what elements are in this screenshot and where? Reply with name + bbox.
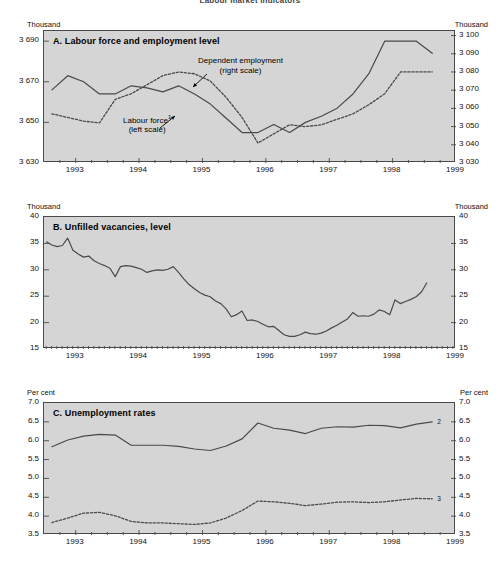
- yCR-tick: 4.5: [459, 492, 470, 500]
- annotation-line-1: Dependent employment: [198, 56, 283, 65]
- panel-c-unit-right: Per cent: [460, 388, 488, 397]
- x-axis-tick: 1993: [55, 166, 95, 174]
- yBL-tick: 20: [30, 318, 39, 326]
- panel-b-unit-right: Thousand: [455, 202, 488, 211]
- yAL-tick: 3 630: [19, 158, 39, 166]
- x-axis-tick: 1997: [308, 352, 348, 360]
- yCL-tick: 5.5: [28, 455, 39, 463]
- yCL-tick: 4.5: [28, 492, 39, 500]
- x-axis-tick: 1995: [181, 352, 221, 360]
- x-axis-tick: 1994: [118, 538, 158, 546]
- x-axis-tick: 1996: [245, 166, 285, 174]
- x-axis-tick: 1998: [372, 352, 412, 360]
- x-axis-tick: 1997: [308, 538, 348, 546]
- x-axis-tick: 1993: [55, 352, 95, 360]
- x-axis-tick: 1994: [118, 352, 158, 360]
- yCR-tick: 6.5: [459, 417, 470, 425]
- panel-c-chart: 23: [44, 403, 456, 535]
- x-axis-tick: 1998: [372, 166, 412, 174]
- yAL-tick: 3 690: [19, 36, 39, 44]
- panel-b: Thousand Thousand B. Unfilled vacancies,…: [0, 200, 500, 378]
- panel-a-plot-area: A. Labour force and employment level: [43, 30, 455, 162]
- series-marker-3: 3: [437, 495, 441, 502]
- yCL-tick: 4.0: [28, 511, 39, 519]
- yAR-tick: 3 070: [459, 85, 479, 93]
- yCL-tick: 3.5: [28, 530, 39, 538]
- yBL-tick: 30: [30, 265, 39, 273]
- series-line-1: [52, 498, 432, 524]
- yAR-tick: 3 060: [459, 103, 479, 111]
- yCR-tick: 6.0: [459, 436, 470, 444]
- yAR-tick: 3 080: [459, 67, 479, 75]
- panel-a-chart: [44, 31, 456, 163]
- yCR-tick: 7.0: [459, 398, 470, 406]
- yCL-tick: 7.0: [28, 398, 39, 406]
- yBL-tick: 40: [30, 212, 39, 220]
- panel-a-unit-left: Thousand: [27, 20, 60, 29]
- yAR-tick: 3 090: [459, 49, 479, 57]
- yAL-tick: 3 650: [19, 117, 39, 125]
- series-line-0: [52, 41, 432, 132]
- yBR-tick: 35: [459, 238, 468, 246]
- annotation-line-2: (right scale): [198, 66, 283, 76]
- annotation-dependent-employment: Dependent employment(right scale): [198, 56, 283, 75]
- yBR-tick: 30: [459, 265, 468, 273]
- yCR-tick: 5.0: [459, 473, 470, 481]
- yBL-tick: 25: [30, 291, 39, 299]
- yAL-tick: 3 670: [19, 77, 39, 85]
- yAR-tick: 3 050: [459, 122, 479, 130]
- x-axis-tick: 1998: [372, 538, 412, 546]
- annotation-line-2: (left scale): [123, 125, 171, 135]
- yAR-tick: 3 100: [459, 31, 479, 39]
- figure-title: Labour market indicators: [0, 0, 500, 5]
- yCL-tick: 6.5: [28, 417, 39, 425]
- panel-b-plot-area: B. Unfilled vacancies, level: [43, 216, 455, 348]
- x-axis-tick: 1994: [118, 166, 158, 174]
- yCL-tick: 5.0: [28, 473, 39, 481]
- annotation-labour-force: Labour force1(left scale): [123, 113, 171, 135]
- yBR-tick: 25: [459, 291, 468, 299]
- x-axis-tick: 1999: [435, 538, 475, 546]
- yBL-tick: 35: [30, 238, 39, 246]
- x-axis-tick: 1993: [55, 538, 95, 546]
- yBR-tick: 40: [459, 212, 468, 220]
- yBL-tick: 15: [30, 344, 39, 352]
- panel-b-unit-left: Thousand: [27, 202, 60, 211]
- series-line-0: [47, 238, 427, 336]
- series-line-0: [52, 422, 432, 451]
- panel-c-plot-area: C. Unemployment rates 23: [43, 402, 455, 534]
- labour-market-figure: Labour market indicators Thousand Thousa…: [0, 0, 500, 573]
- series-marker-2: 2: [437, 418, 441, 425]
- x-axis-tick: 1999: [435, 352, 475, 360]
- yCR-tick: 5.5: [459, 455, 470, 463]
- yBR-tick: 20: [459, 318, 468, 326]
- annotation-line-1: Labour force1: [123, 116, 171, 125]
- panel-a-unit-right: Thousand: [455, 20, 488, 29]
- x-axis-tick: 1997: [308, 166, 348, 174]
- yCR-tick: 4.0: [459, 511, 470, 519]
- x-axis-tick: 1999: [435, 166, 475, 174]
- panel-b-chart: [44, 217, 456, 349]
- yCL-tick: 6.0: [28, 436, 39, 444]
- x-axis-tick: 1995: [181, 538, 221, 546]
- panel-c-unit-left: Per cent: [27, 388, 55, 397]
- x-axis-tick: 1996: [245, 538, 285, 546]
- x-axis-tick: 1995: [181, 166, 221, 174]
- panel-a: Thousand Thousand A. Labour force and em…: [0, 16, 500, 190]
- panel-c: Per cent Per cent C. Unemployment rates …: [0, 388, 500, 568]
- x-axis-tick: 1996: [245, 352, 285, 360]
- yAR-tick: 3 040: [459, 140, 479, 148]
